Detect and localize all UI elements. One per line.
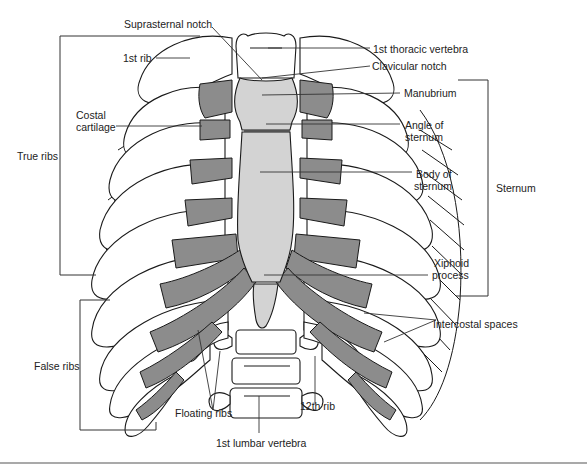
label-first-thoracic-vertebra: 1st thoracic vertebra (373, 43, 468, 55)
label-first-rib: 1st rib (123, 52, 152, 64)
label-clavicular-notch: Clavicular notch (372, 60, 447, 72)
label-first-lumbar-vertebra: 1st lumbar vertebra (216, 437, 306, 449)
label-false-ribs: False ribs (34, 360, 80, 372)
rib-cage-illustration: .bone { fill: #fff; stroke: #1a1a1a; str… (0, 0, 587, 469)
label-costal-cartilage-line1: Costal (76, 109, 106, 121)
label-sternum: Sternum (496, 182, 536, 194)
label-angle-of-sternum-line1: Angle of (405, 119, 444, 131)
label-twelfth-rib: 12th rib (300, 400, 335, 412)
label-body-of-sternum-line2: sternum (414, 180, 452, 192)
thoracic-cage-diagram: .bone { fill: #fff; stroke: #1a1a1a; str… (0, 0, 587, 469)
label-costal-cartilage-line2: cartilage (76, 121, 116, 133)
label-xiphoid-process-line1: Xiphoid (434, 257, 469, 269)
xiphoid-process (253, 284, 278, 328)
label-manubrium: Manubrium (404, 87, 457, 99)
first-lumbar-vertebra (230, 388, 302, 418)
label-intercostal-spaces: Intercostal spaces (433, 318, 518, 330)
first-thoracic-vertebra (236, 33, 296, 78)
body-of-sternum (237, 132, 293, 282)
label-suprasternal-notch: Suprasternal notch (124, 18, 212, 30)
label-angle-of-sternum-line2: sternum (405, 131, 443, 143)
label-body-of-sternum-line1: Body of (416, 168, 452, 180)
label-xiphoid-process-line2: process (432, 269, 469, 281)
label-true-ribs: True ribs (17, 150, 58, 162)
manubrium (235, 78, 298, 130)
label-floating-ribs: Floating ribs (175, 407, 232, 419)
